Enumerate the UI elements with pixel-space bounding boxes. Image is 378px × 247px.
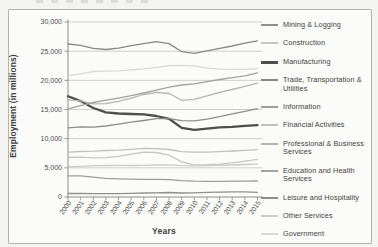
- x-tick-label: 2010: [184, 199, 198, 216]
- legend-item: Mining & Logging: [261, 21, 371, 30]
- legend-swatch: [261, 124, 278, 126]
- legend-label: Professional & Business Services: [283, 140, 371, 158]
- y-tick-label: 10,000: [41, 135, 63, 142]
- x-tick-label: 2008: [159, 199, 173, 216]
- legend-label: Financial Activities: [283, 121, 345, 130]
- legend-item: Construction: [261, 39, 371, 48]
- y-tick-label: 0: [58, 193, 62, 200]
- legend-label: Government: [283, 230, 324, 239]
- legend-item: Leisure and Hospitality: [261, 194, 371, 203]
- legend-label: Other Services: [283, 212, 333, 221]
- x-tick-label: 2009: [172, 199, 186, 216]
- legend-label: Manufacturing: [283, 58, 331, 67]
- legend-swatch: [261, 79, 278, 81]
- y-tick-label: 15,000: [41, 106, 63, 113]
- series-line-professional-business-services: [68, 83, 258, 104]
- legend-item: Financial Activities: [261, 121, 371, 130]
- x-tick-label: 2003: [96, 199, 110, 216]
- y-axis-title: Employment (in millions): [8, 6, 20, 206]
- series-line-other-services: [68, 164, 258, 167]
- x-tick-label: 2001: [71, 199, 85, 216]
- x-tick-label: 2005: [121, 199, 135, 216]
- legend-swatch: [261, 42, 278, 44]
- legend-item: Other Services: [261, 212, 371, 221]
- x-tick-label: 2006: [134, 199, 148, 216]
- x-tick-label: 2002: [83, 199, 97, 216]
- legend-label: Education and Health Services: [283, 167, 371, 185]
- y-tick-label: 30,000: [41, 18, 63, 25]
- x-axis-title: Years: [68, 226, 260, 236]
- legend-swatch: [261, 106, 278, 108]
- legend-swatch: [261, 215, 278, 217]
- y-tick-label: 25,000: [41, 48, 63, 55]
- x-tick-label: 2015: [248, 199, 262, 216]
- x-tick-label: 2007: [147, 199, 161, 216]
- y-tick-label: 5,000: [44, 164, 62, 171]
- x-tick-label: 2004: [109, 199, 123, 216]
- x-tick-label: 2013: [222, 199, 236, 216]
- series-line-leisure-and-hospitality: [68, 109, 258, 128]
- legend-label: Leisure and Hospitality: [283, 194, 359, 203]
- y-tick-label: 20,000: [41, 77, 63, 84]
- series-line-financial-activities: [68, 148, 258, 152]
- series-line-construction: [68, 152, 258, 165]
- legend-swatch: [261, 61, 278, 64]
- legend: Mining & LoggingConstructionManufacturin…: [261, 21, 371, 239]
- legend-item: Education and Health Services: [261, 167, 371, 185]
- series-line-information: [68, 176, 258, 182]
- legend-item: Government: [261, 230, 371, 239]
- legend-swatch: [261, 197, 278, 199]
- x-tick-label: 2000: [58, 199, 72, 216]
- legend-item: Trade, Transportation & Utilities: [261, 76, 371, 94]
- legend-item: Information: [261, 103, 371, 112]
- x-tick-label: 2011: [197, 199, 211, 215]
- legend-item: Manufacturing: [261, 58, 371, 67]
- series-line-mining-logging: [68, 192, 258, 194]
- x-tick-label: 2014: [235, 199, 249, 216]
- legend-item: Professional & Business Services: [261, 140, 371, 158]
- legend-label: Construction: [283, 39, 325, 48]
- legend-label: Trade, Transportation & Utilities: [283, 76, 371, 94]
- legend-swatch: [261, 170, 278, 172]
- x-tick-label: 2012: [210, 199, 224, 216]
- legend-label: Information: [283, 103, 321, 112]
- legend-swatch: [261, 24, 278, 26]
- series-line-government: [68, 65, 258, 75]
- legend-swatch: [261, 233, 278, 235]
- legend-label: Mining & Logging: [283, 21, 341, 30]
- legend-swatch: [261, 143, 278, 145]
